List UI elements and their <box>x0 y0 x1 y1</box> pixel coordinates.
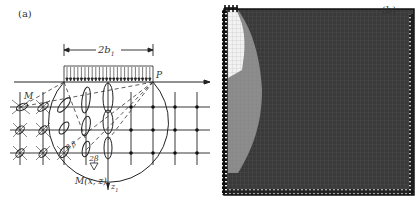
panel-b-fem-contour: (b) <box>212 0 418 204</box>
angle-marker <box>90 163 98 170</box>
fem-contour-svg <box>212 0 418 204</box>
point-mxz-label: M(x, z) <box>75 176 107 186</box>
point-m-label: M <box>24 91 33 101</box>
angle-2beta-label: 2β <box>89 154 99 163</box>
strip-load <box>64 66 153 82</box>
ground-surface <box>14 80 210 84</box>
right-boundary <box>409 14 413 194</box>
dimension-label: 2b1 <box>98 44 115 57</box>
stress-arc <box>49 82 169 182</box>
panel-a-label: (a) <box>18 8 32 19</box>
panel-b-label: (b) <box>382 4 396 15</box>
grid <box>10 82 210 190</box>
fem-mesh <box>224 9 414 195</box>
bottom-boundary <box>224 189 414 195</box>
stress-diagram-svg <box>0 0 212 204</box>
panel-a-diagram: (a) 2b1 P M β β 2β M(x, z) z1 <box>0 0 212 204</box>
point-p-label: P <box>156 70 162 80</box>
z-axis-label: z1 <box>111 182 118 193</box>
